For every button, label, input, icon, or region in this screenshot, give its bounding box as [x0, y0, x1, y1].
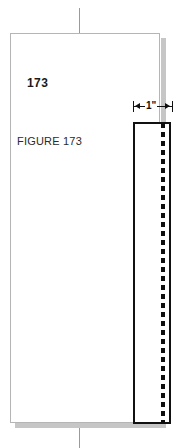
- page-thumbnail-stage: 173 FIGURE 173 1": [0, 0, 179, 448]
- document-page-sheet[interactable]: 173 FIGURE 173 1": [10, 33, 160, 423]
- arrow-left-icon: [135, 103, 140, 109]
- dimension-annotation: 1": [132, 100, 174, 114]
- figure-caption: FIGURE 173: [17, 135, 82, 148]
- connector-line-top: [79, 8, 80, 34]
- vertical-dashed-strip: [161, 123, 165, 423]
- arrow-right-icon: [165, 103, 170, 109]
- dimension-label: 1": [145, 99, 157, 112]
- dimension-tick-left-icon: [133, 101, 134, 112]
- page-number: 173: [27, 76, 48, 90]
- connector-line-bottom: [79, 428, 80, 448]
- dimension-tick-right-icon: [172, 101, 173, 112]
- figure-rectangle: [133, 122, 171, 424]
